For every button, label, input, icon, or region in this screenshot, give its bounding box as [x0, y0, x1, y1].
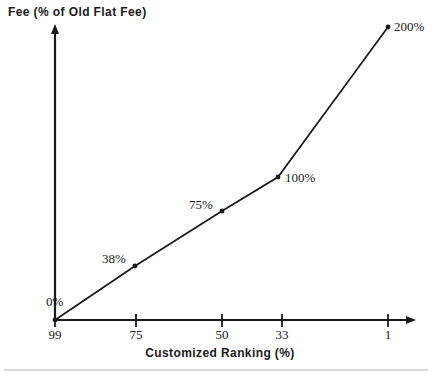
x-tick-label-2: 50: [216, 327, 229, 342]
x-axis-title: Customized Ranking (%): [145, 346, 294, 360]
data-point-38: [133, 264, 138, 269]
x-tick-label-4: 1: [385, 327, 392, 342]
data-label-0: 0%: [46, 294, 64, 309]
series-point-labels: 0% 38% 75% 100% 200%: [46, 19, 425, 309]
line-chart: 99 75 50 33 1 0% 38% 75% 100% 200% Fee (…: [0, 0, 432, 376]
data-point-100: [276, 175, 281, 180]
y-axis-title: Fee (% of Old Flat Fee): [8, 5, 147, 19]
series-point-markers: [53, 25, 391, 323]
data-point-0: [53, 318, 58, 323]
y-axis: [51, 24, 59, 320]
data-label-38: 38%: [102, 251, 126, 266]
data-label-100: 100%: [285, 170, 316, 185]
data-label-75: 75%: [189, 197, 213, 212]
x-axis-tick-labels: 99 75 50 33 1: [49, 327, 392, 342]
data-point-200: [386, 25, 391, 30]
fee-series-line: [55, 27, 388, 320]
data-label-200: 200%: [394, 19, 425, 34]
x-tick-label-1: 75: [130, 327, 143, 342]
x-axis-arrowhead: [406, 316, 416, 324]
x-axis: [55, 316, 416, 324]
y-axis-arrowhead: [51, 24, 59, 34]
data-point-75: [220, 209, 225, 214]
x-tick-label-3: 33: [276, 327, 289, 342]
chart-screenshot: 99 75 50 33 1 0% 38% 75% 100% 200% Fee (…: [0, 0, 432, 376]
x-tick-label-0: 99: [49, 327, 62, 342]
